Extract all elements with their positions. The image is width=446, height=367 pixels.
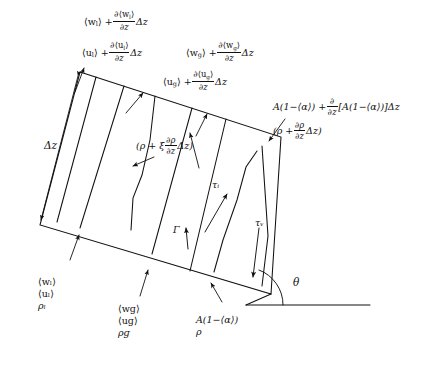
label-top-wg: ⟨wg⟩ +∂⟨wg⟩∂zΔz: [186, 41, 254, 62]
label-tau-i: τᵢ: [212, 180, 219, 190]
control-volume-outline: [40, 72, 281, 294]
label-rho-top: (ρ +∂ρ∂zΔz): [273, 121, 322, 141]
inflow-arrow-area: [211, 283, 222, 302]
leader-rho-xi: [133, 157, 154, 166]
tau-i-arrow: [205, 194, 227, 232]
label-top-ug: ⟨ug⟩ +∂⟨ug⟩∂zΔz: [163, 70, 227, 91]
wall-line: [262, 146, 268, 286]
tau-w-arrow: [253, 228, 259, 277]
interface-line: [214, 151, 257, 272]
liquid-w: ⟨wₗ⟩: [38, 276, 56, 288]
area-bottom-value: A(1−⟨α⟩): [196, 314, 238, 326]
inflow-arrow-liquid: [70, 235, 79, 260]
label-area-top: A(1−⟨α⟩) +∂∂z[A(1−⟨α⟩)]Δz: [273, 97, 400, 117]
gas-rho: ρɡ: [118, 327, 140, 339]
label-theta: θ: [293, 277, 299, 288]
label-gamma: Γ: [173, 225, 180, 235]
label-top-wl: ⟨wl⟩ +∂⟨wl⟩∂zΔz: [84, 10, 148, 31]
label-area-bottom: A(1−⟨α⟩) ρ: [196, 314, 238, 338]
gamma-arrow: [186, 228, 188, 249]
gas-u: ⟨uɡ⟩: [118, 315, 140, 327]
outflow-arrow-wg: [196, 114, 207, 136]
outflow-arrow-wl: [75, 68, 84, 92]
duct-axis-to-horizontal: [246, 294, 271, 305]
internal-line-1: [57, 77, 96, 222]
label-gas-properties: ⟨wɡ⟩ ⟨uɡ⟩ ρɡ: [118, 303, 140, 339]
label-top-ul: ⟨ul⟩ +∂⟨ul⟩∂zΔz: [82, 41, 142, 62]
label-delta-z: Δz: [44, 140, 57, 151]
liquid-rho: ρₗ: [38, 300, 56, 312]
outflow-arrow-ul: [126, 93, 143, 113]
gas-w: ⟨wɡ⟩: [118, 303, 140, 315]
label-liquid-properties: ⟨wₗ⟩ ⟨uₗ⟩ ρₗ: [38, 276, 56, 312]
inflow-arrow-gas: [140, 270, 148, 296]
rho-bottom: ρ: [196, 326, 238, 338]
label-rho-xi: (ρ + ξ∂ρ∂zΔz): [136, 136, 193, 156]
label-tau-w: τᵥ: [255, 218, 264, 228]
internal-line-3: [131, 96, 155, 230]
liquid-u: ⟨uₗ⟩: [38, 288, 56, 300]
internal-line-2: [80, 86, 124, 228]
